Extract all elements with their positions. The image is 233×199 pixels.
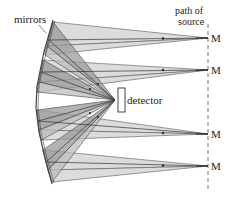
source-label-3: M xyxy=(211,128,221,140)
detector-box xyxy=(118,88,125,112)
source-label-1: M xyxy=(211,32,221,44)
mirrors-pointer xyxy=(39,25,46,33)
source-label-4: M xyxy=(211,160,221,172)
mirrors-label: mirrors xyxy=(14,13,46,25)
source-ticks xyxy=(196,38,208,166)
path-label-line2: source xyxy=(178,16,205,27)
path-label-line1: path of xyxy=(175,5,204,16)
mirror-array-diagram: mirrors detector path of source M M M M xyxy=(0,0,233,199)
diagram-canvas: mirrors detector path of source M M M M xyxy=(0,0,233,199)
detector-label: detector xyxy=(127,94,163,106)
source-label-2: M xyxy=(211,64,221,76)
